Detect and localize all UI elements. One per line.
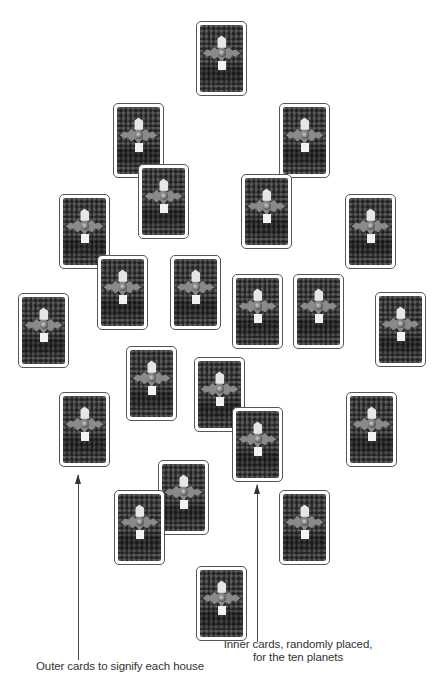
card-base-block-icon <box>81 432 89 441</box>
card-back-pattern-icon <box>130 350 173 417</box>
card-back-pattern-icon <box>283 494 326 561</box>
card-base-block-icon <box>218 61 226 70</box>
tarot-card-20 <box>114 490 165 565</box>
round-emblem-icon <box>218 49 226 57</box>
card-base-block-icon <box>192 295 200 304</box>
card-back-pattern-icon <box>350 396 393 463</box>
house-shape-icon <box>134 118 143 130</box>
house-shape-icon <box>253 422 262 434</box>
round-emblem-icon <box>192 283 200 291</box>
card-base-block-icon <box>180 500 188 509</box>
house-shape-icon <box>262 189 271 201</box>
card-back-pattern-icon <box>349 198 392 265</box>
tarot-card-4 <box>138 164 189 239</box>
card-base-block-icon <box>315 314 323 323</box>
tarot-card-21 <box>279 490 330 565</box>
tarot-card-7 <box>345 194 396 269</box>
card-base-block-icon <box>160 204 168 213</box>
house-shape-icon <box>215 372 224 384</box>
round-emblem-icon <box>81 420 89 428</box>
card-base-block-icon <box>301 143 309 152</box>
round-emblem-icon <box>397 320 405 328</box>
card-base-block-icon <box>40 333 48 342</box>
round-emblem-icon <box>135 131 143 139</box>
card-base-block-icon <box>263 214 271 223</box>
card-back-pattern-icon <box>174 259 217 326</box>
house-shape-icon <box>147 361 156 373</box>
round-emblem-icon <box>216 385 224 393</box>
tarot-card-12 <box>18 293 69 368</box>
house-shape-icon <box>217 581 226 593</box>
round-emblem-icon <box>81 222 89 230</box>
round-emblem-icon <box>263 202 271 210</box>
inner-cards-arrow <box>257 485 258 642</box>
card-back-pattern-icon <box>200 570 243 637</box>
tarot-card-10 <box>232 274 283 349</box>
outer-cards-caption: Outer cards to signify each house <box>36 660 204 673</box>
card-base-block-icon <box>81 234 89 243</box>
tarot-card-8 <box>97 255 148 330</box>
tarot-card-11 <box>293 274 344 349</box>
tarot-card-14 <box>126 346 177 421</box>
round-emblem-icon <box>160 192 168 200</box>
round-emblem-icon <box>301 131 309 139</box>
house-shape-icon <box>217 36 226 48</box>
round-emblem-icon <box>148 374 156 382</box>
card-base-block-icon <box>148 386 156 395</box>
card-back-pattern-icon <box>142 168 185 235</box>
tarot-card-19 <box>158 460 209 535</box>
card-base-block-icon <box>254 447 262 456</box>
round-emblem-icon <box>301 518 309 526</box>
round-emblem-icon <box>368 420 376 428</box>
card-back-pattern-icon <box>118 494 161 561</box>
tarot-card-18 <box>232 407 283 482</box>
card-base-block-icon <box>119 295 127 304</box>
card-base-block-icon <box>135 143 143 152</box>
card-back-pattern-icon <box>22 297 65 364</box>
house-shape-icon <box>396 307 405 319</box>
card-base-block-icon <box>254 314 262 323</box>
tarot-spread-diagram: Outer cards to signify each house Inner … <box>0 0 447 691</box>
tarot-card-9 <box>170 255 221 330</box>
card-back-pattern-icon <box>283 107 326 174</box>
card-back-pattern-icon <box>236 411 279 478</box>
inner-cards-caption: Inner cards, randomly placed, for the te… <box>218 638 378 664</box>
card-back-pattern-icon <box>200 25 243 92</box>
tarot-card-5 <box>241 174 292 249</box>
house-shape-icon <box>191 270 200 282</box>
tarot-card-13 <box>375 292 426 367</box>
house-shape-icon <box>253 289 262 301</box>
card-base-block-icon <box>301 530 309 539</box>
card-base-block-icon <box>397 332 405 341</box>
card-back-pattern-icon <box>63 396 106 463</box>
arrow-head-icon <box>254 484 260 494</box>
card-base-block-icon <box>216 397 224 406</box>
round-emblem-icon <box>180 488 188 496</box>
house-shape-icon <box>80 407 89 419</box>
house-shape-icon <box>179 475 188 487</box>
round-emblem-icon <box>40 321 48 329</box>
house-shape-icon <box>367 407 376 419</box>
tarot-card-1 <box>196 21 247 96</box>
card-back-pattern-icon <box>379 296 422 363</box>
tarot-card-22 <box>196 566 247 641</box>
house-shape-icon <box>80 209 89 221</box>
round-emblem-icon <box>315 302 323 310</box>
house-shape-icon <box>135 505 144 517</box>
house-shape-icon <box>159 179 168 191</box>
house-shape-icon <box>300 505 309 517</box>
card-base-block-icon <box>367 234 375 243</box>
card-back-pattern-icon <box>245 178 288 245</box>
tarot-card-16 <box>59 392 110 467</box>
round-emblem-icon <box>136 518 144 526</box>
house-shape-icon <box>314 289 323 301</box>
card-back-pattern-icon <box>297 278 340 345</box>
arrow-head-icon <box>75 474 81 484</box>
house-shape-icon <box>300 118 309 130</box>
house-shape-icon <box>366 209 375 221</box>
house-shape-icon <box>118 270 127 282</box>
card-base-block-icon <box>136 530 144 539</box>
round-emblem-icon <box>119 283 127 291</box>
house-shape-icon <box>39 308 48 320</box>
card-back-pattern-icon <box>236 278 279 345</box>
